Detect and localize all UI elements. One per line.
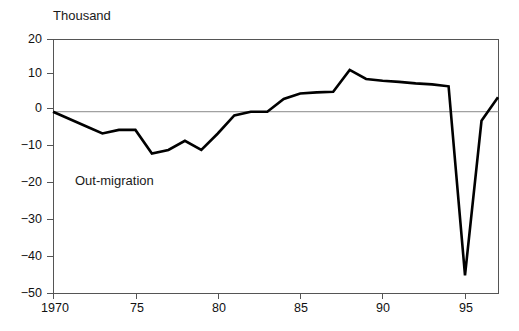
- ytick-label-20: 20: [2, 33, 42, 46]
- y-axis-ticks: [47, 40, 54, 294]
- ytick-label-m30: −30: [2, 213, 42, 226]
- migration-line-chart: Thousand 20 10 0 −10: [0, 0, 519, 331]
- xtick-label-85: 85: [288, 302, 314, 315]
- ytick-label-m20: −20: [2, 176, 42, 189]
- ytick-label-m40: −40: [2, 250, 42, 263]
- xtick-label-1970: 1970: [33, 302, 77, 315]
- ytick-label-m10: −10: [2, 139, 42, 152]
- xtick-label-75: 75: [124, 302, 150, 315]
- plot-area: [0, 0, 519, 331]
- xtick-label-80: 80: [206, 302, 232, 315]
- ytick-label-0: 0: [2, 102, 42, 115]
- ytick-label-10: 10: [2, 67, 42, 80]
- x-axis-ticks: [54, 294, 466, 300]
- plot-frame: [54, 40, 499, 294]
- xtick-label-90: 90: [370, 302, 396, 315]
- xtick-label-95: 95: [453, 302, 479, 315]
- out-migration-annotation: Out-migration: [75, 174, 154, 188]
- ytick-label-m50: −50: [2, 287, 42, 300]
